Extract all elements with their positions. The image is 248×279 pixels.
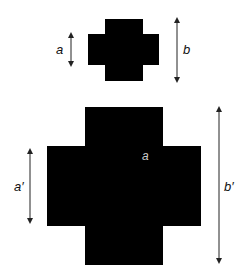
label-b-prime: b′ bbox=[224, 180, 234, 193]
inner-label-a: a bbox=[142, 150, 149, 162]
label-b: b bbox=[183, 43, 190, 56]
label-a: a bbox=[56, 43, 63, 56]
label-a-prime: a′ bbox=[14, 180, 24, 193]
dimension-arrows bbox=[0, 0, 248, 279]
